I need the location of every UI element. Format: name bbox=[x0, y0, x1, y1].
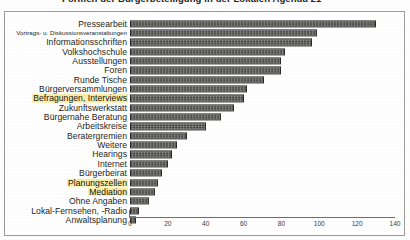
bar-category-label: Hearings bbox=[91, 150, 128, 159]
bar-category-label: Lokal-Fernsehen, -Radio bbox=[30, 206, 128, 215]
bar-row: Ausstellungen bbox=[0, 56, 410, 65]
bar-category-label: Ausstellungen bbox=[71, 57, 128, 66]
bar-category-label: Planungszellen bbox=[67, 178, 128, 187]
bar-row: Bürgernahe Beratung bbox=[0, 112, 410, 121]
bar bbox=[130, 39, 312, 46]
bar-category-label: Bürgerversammlungen bbox=[38, 85, 128, 94]
bar-category-label: Foren bbox=[103, 66, 128, 75]
bar-category-label: Bürgerbeirat bbox=[78, 169, 128, 178]
bar bbox=[130, 188, 155, 195]
x-axis-tick-label: 40 bbox=[202, 220, 209, 227]
bar bbox=[130, 123, 206, 130]
bar bbox=[130, 76, 264, 83]
bar-category-label: Weitere bbox=[96, 141, 128, 150]
bar-row: Bürgerbeirat bbox=[0, 169, 410, 178]
bar-category-label: Volkshochschule bbox=[61, 47, 128, 56]
bar bbox=[130, 85, 247, 92]
bar bbox=[130, 132, 187, 139]
bar-row: Beratergremien bbox=[0, 131, 410, 140]
bar-category-label: Pressearbeit bbox=[77, 19, 128, 28]
x-axis-tick-label: 140 bbox=[389, 220, 400, 227]
bar-rows: PressearbeitVortrags- u. Diskussionsvera… bbox=[0, 19, 410, 225]
bar bbox=[130, 95, 244, 102]
bar-category-label: Zukunftswerkstatt bbox=[58, 103, 128, 112]
x-axis-line bbox=[130, 217, 395, 218]
x-axis-ticks: 020406080100120140 bbox=[0, 220, 410, 234]
bar-row: Hearings bbox=[0, 150, 410, 159]
bar-category-label: Befragungen, Interviews bbox=[32, 94, 128, 103]
bar-row: Weitere bbox=[0, 140, 410, 149]
bar-row: Pressearbeit bbox=[0, 19, 410, 28]
bar bbox=[130, 57, 281, 64]
bar-row: Planungszellen bbox=[0, 178, 410, 187]
bar bbox=[130, 160, 168, 167]
x-axis-tick-label: 80 bbox=[278, 220, 285, 227]
bar bbox=[130, 151, 172, 158]
bar-row: Internet bbox=[0, 159, 410, 168]
bar-category-label: Vortrags- u. Diskussionsveranstaltungen bbox=[15, 30, 128, 36]
bar bbox=[130, 104, 234, 111]
x-axis-tick-label: 120 bbox=[352, 220, 363, 227]
bar-row: Mediation bbox=[0, 187, 410, 196]
bar-category-label: Mediation bbox=[88, 188, 128, 197]
x-axis-tick-label: 100 bbox=[314, 220, 325, 227]
bar bbox=[130, 29, 317, 36]
bar-category-label: Runde Tische bbox=[73, 75, 128, 84]
bar-row: Lokal-Fernsehen, -Radio bbox=[0, 206, 410, 215]
bar bbox=[130, 198, 149, 205]
bar bbox=[130, 20, 376, 27]
x-axis-tick-label: 0 bbox=[128, 220, 132, 227]
chart-title-strip: Formen der Bürgerbeteiligung in der Loka… bbox=[0, 0, 410, 9]
bar-category-label: Ohne Angaben bbox=[68, 197, 128, 206]
bar bbox=[130, 170, 162, 177]
bar-category-label: Bürgernahe Beratung bbox=[43, 113, 128, 122]
x-axis-tick-label: 60 bbox=[240, 220, 247, 227]
chart-title: Formen der Bürgerbeteiligung in der Loka… bbox=[62, 0, 321, 4]
bar-row: Arbeitskreise bbox=[0, 122, 410, 131]
bar bbox=[130, 142, 177, 149]
bar-row: Foren bbox=[0, 66, 410, 75]
bar-category-label: Informationsschriften bbox=[45, 38, 128, 47]
chart-page: Formen der Bürgerbeteiligung in der Loka… bbox=[0, 0, 410, 240]
bar-category-label: Internet bbox=[96, 160, 128, 169]
bar bbox=[130, 179, 158, 186]
bar bbox=[130, 207, 139, 214]
bar-category-label: Beratergremien bbox=[66, 132, 128, 141]
bar-category-label: Arbeitskreise bbox=[76, 122, 128, 131]
bar-row: Volkshochschule bbox=[0, 47, 410, 56]
bar-chart: PressearbeitVortrags- u. Diskussionsvera… bbox=[0, 11, 410, 240]
bar bbox=[130, 48, 285, 55]
x-axis-tick-label: 20 bbox=[164, 220, 171, 227]
bar bbox=[130, 67, 281, 74]
bar bbox=[130, 114, 221, 121]
